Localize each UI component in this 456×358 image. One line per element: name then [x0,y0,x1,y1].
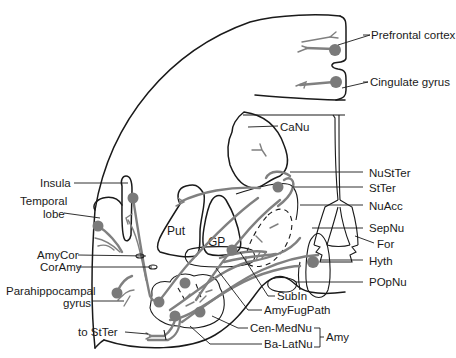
cell-parahippocampal [112,288,123,299]
label-stter: StTer [369,182,396,194]
label-to-stter: to StTer [78,326,118,338]
label-hyth: Hyth [369,255,393,267]
label-gyrus: gyrus [63,297,91,309]
hemisphere-outline [92,15,346,348]
cell-amygdala-base [170,311,181,322]
label-canu: CaNu [280,121,309,133]
label-sepnu: SepNu [369,222,404,234]
cell-insula [128,193,139,204]
label-for: For [377,238,394,250]
label-parahippocampal: Parahippocampal [6,285,96,297]
label-temporal: Temporal [20,195,67,207]
label-amy: Amy [326,331,349,343]
cell-temporal [93,221,104,232]
cell-prefrontal [329,44,341,56]
putamen-label: Put [167,224,186,238]
label-cen-mednu: Cen-MedNu [250,322,312,334]
amygdala-connections-diagram: Put GP [0,0,456,358]
label-prefrontal-cortex: Prefrontal cortex [371,29,456,41]
cell-subin [227,245,238,256]
cell-cingulate [330,76,342,88]
left-labels: Insula Temporal lobe AmyCor CorAmy Parah… [6,177,118,338]
label-subin: SubIn [277,290,307,302]
label-amyfugpath: AmyFugPath [264,304,330,316]
label-cingulate-gyrus: Cingulate gyrus [370,76,450,88]
label-lobe: lobe [43,208,65,220]
cell-stter [273,182,284,193]
label-insula: Insula [40,177,71,189]
septum-outline [314,115,358,262]
label-ba-latnu: Ba-LatNu [264,338,313,350]
label-popnu: POpNu [369,276,407,288]
cell-amygdala-lateral [154,297,165,308]
label-coramy: CorAmy [40,261,82,273]
cell-amygdala-upper [180,278,191,289]
insula-outline [121,176,132,241]
label-amycor: AmyCor [37,249,79,261]
label-nuacc: NuAcc [369,200,403,212]
cell-amygdala-central [195,307,206,318]
label-nustter: NuStTer [369,167,411,179]
cell-hyth [307,256,319,268]
